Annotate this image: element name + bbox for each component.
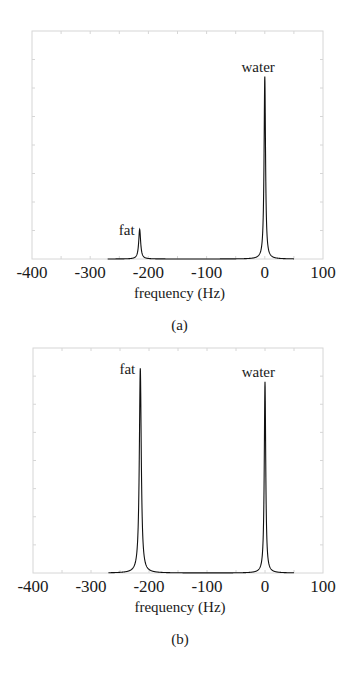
peak-label-fat: fat <box>119 222 136 238</box>
panel-caption: (a) <box>171 317 188 334</box>
x-tick-label: -400 <box>16 263 47 282</box>
spectrum-line <box>108 368 294 573</box>
figure: -400-300-200-1000100 fat water frequency… <box>0 0 353 675</box>
x-tick-label: -200 <box>133 577 164 596</box>
panel-b: -400-300-200-1000100 fat water frequency… <box>17 348 335 648</box>
x-tick-label: 100 <box>310 577 336 596</box>
x-tick-label: -300 <box>75 577 106 596</box>
spectrum-line <box>108 77 294 259</box>
x-tick-label: 100 <box>310 263 336 282</box>
peak-label-fat: fat <box>119 361 136 377</box>
x-axis-label: frequency (Hz) <box>134 285 225 302</box>
panel-caption: (b) <box>171 631 189 648</box>
x-tick-label: -100 <box>191 263 222 282</box>
ticks <box>33 348 323 573</box>
x-axis-label: frequency (Hz) <box>134 599 225 616</box>
x-tick-label: -400 <box>17 577 48 596</box>
x-tick-label: -200 <box>133 263 164 282</box>
peak-label-water: water <box>241 59 274 75</box>
x-tick-label: -100 <box>191 577 222 596</box>
plot-frame <box>32 31 323 259</box>
x-tick-label: 0 <box>261 577 270 596</box>
peak-label-water: water <box>242 364 275 380</box>
tick-labels: -400-300-200-1000100 <box>17 577 335 596</box>
x-tick-label: 0 <box>261 263 270 282</box>
tick-labels: -400-300-200-1000100 <box>16 263 335 282</box>
panel-a: -400-300-200-1000100 fat water frequency… <box>16 31 335 334</box>
plot-frame <box>33 348 323 573</box>
ticks <box>32 31 323 259</box>
x-tick-label: -300 <box>75 263 106 282</box>
